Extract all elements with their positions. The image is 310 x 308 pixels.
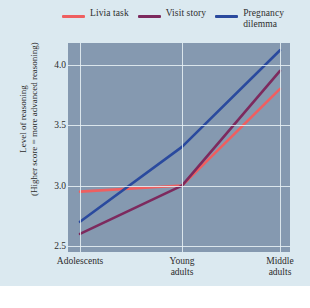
y-axis-tick-label: 4.0 — [54, 60, 66, 70]
legend-swatch-pregnancy-dilemma — [215, 15, 238, 18]
legend-item-visit-story: Visit story — [138, 8, 206, 19]
x-axis-tick-label: Young adults — [170, 256, 195, 278]
x-axis-tick-label: Adolescents — [57, 256, 103, 267]
gridline-horizontal — [68, 125, 290, 126]
legend-swatch-visit-story — [138, 15, 161, 18]
y-axis-title: Level of reasoning (Higher score = more … — [18, 26, 40, 212]
chart-legend: Livia task Visit story Pregnancy dilemma — [62, 8, 308, 38]
series-lines — [68, 43, 290, 252]
gridline-vertical — [182, 43, 183, 252]
series-line-visit-story — [80, 71, 280, 234]
legend-label-pregnancy-dilemma: Pregnancy dilemma — [243, 8, 284, 29]
figure-page: Livia task Visit story Pregnancy dilemma… — [0, 0, 310, 308]
gridline-horizontal — [68, 246, 290, 247]
legend-item-livia-task: Livia task — [62, 8, 129, 19]
x-axis-tick-label: Middle adults — [266, 256, 293, 278]
gridline-vertical — [80, 43, 81, 252]
gridline-horizontal — [68, 65, 290, 66]
y-axis-tick-label: 3.5 — [54, 120, 66, 130]
gridline-vertical — [280, 43, 281, 252]
series-line-pregnancy-dilemma — [80, 50, 280, 222]
legend-swatch-livia-task — [62, 15, 85, 18]
plot-area — [68, 43, 290, 252]
legend-label-visit-story: Visit story — [166, 8, 206, 19]
y-axis-tick-label: 3.0 — [54, 181, 66, 191]
page-bottom-band — [0, 286, 310, 308]
legend-label-livia-task: Livia task — [90, 8, 129, 19]
y-axis-ticks: 2.53.03.54.0 — [44, 43, 66, 252]
legend-item-pregnancy-dilemma: Pregnancy dilemma — [215, 8, 284, 29]
gridline-horizontal — [68, 186, 290, 187]
line-chart-figure: Livia task Visit story Pregnancy dilemma… — [0, 0, 310, 286]
y-axis-tick-label: 2.5 — [54, 241, 66, 251]
x-axis-ticks: AdolescentsYoung adultsMiddle adults — [0, 256, 310, 286]
